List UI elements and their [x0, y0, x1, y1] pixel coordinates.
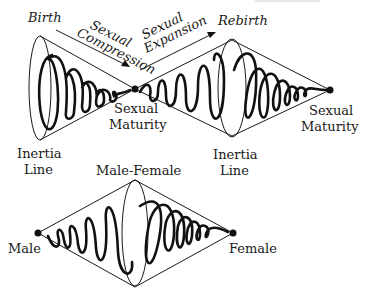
rebirth-inertia-ellipse [218, 39, 246, 137]
inertia-line-label-1-line2: Line [24, 162, 53, 177]
male-spiral [48, 207, 132, 273]
female-dot [230, 230, 237, 237]
male-female-ellipse [122, 180, 148, 286]
sexual-cycle-diagram: Birth Sexual Compression Sexual Expansio… [0, 0, 365, 298]
inertia-line-label-1-line1: Inertia [17, 146, 62, 161]
sexual-maturity-label-1-line1: Sexual [114, 101, 158, 116]
male-dot [35, 230, 42, 237]
inertia-line-label-2-line1: Inertia [213, 147, 258, 162]
sexual-maturity-label-2-line2: Maturity [301, 119, 359, 134]
male-female-diamond [38, 180, 233, 287]
male-female-label: Male-Female [96, 163, 182, 178]
female-spiral [140, 202, 228, 264]
female-label: Female [229, 241, 277, 256]
male-label: Male [8, 241, 41, 256]
sexual-maturity-label-1-line2: Maturity [109, 117, 167, 132]
sexual-maturity-dot-2 [327, 87, 334, 94]
inertia-line-label-2-line2: Line [220, 163, 249, 178]
rebirth-label: Rebirth [217, 13, 268, 28]
birth-label: Birth [27, 10, 62, 25]
sexual-maturity-label-2-line1: Sexual [309, 103, 353, 118]
